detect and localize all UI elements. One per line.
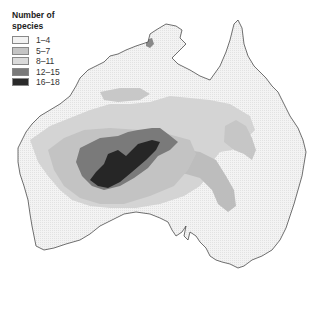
swatch-5-7 — [12, 47, 29, 55]
swatch-1-4 — [12, 36, 29, 44]
legend-item-5-7: 5–7 — [12, 46, 60, 57]
swatch-8-11 — [12, 57, 29, 65]
swatch-16-18 — [12, 78, 29, 86]
legend-item-12-15: 12–15 — [12, 67, 60, 78]
legend-title: Number of species — [12, 10, 60, 32]
legend: Number of species 1–4 5–7 8–11 12–15 16–… — [12, 10, 60, 88]
legend-item-1-4: 1–4 — [12, 35, 60, 46]
legend-item-16-18: 16–18 — [12, 77, 60, 88]
legend-item-8-11: 8–11 — [12, 56, 60, 67]
swatch-12-15 — [12, 68, 29, 76]
